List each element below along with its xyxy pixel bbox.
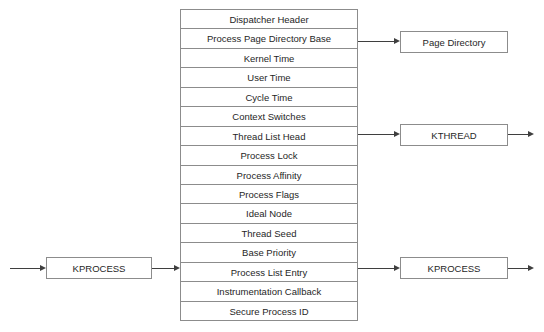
struct-row: Secure Process ID [181, 302, 357, 321]
struct-row: Process Lock [181, 146, 357, 165]
struct-row: Ideal Node [181, 204, 357, 223]
connector-line-kthread-to-edge [508, 134, 530, 135]
struct-row: Process Flags [181, 185, 357, 204]
connector-line-threadlisthead-to-kthread [358, 134, 394, 135]
arrowhead-icon-threadlisthead-to-kthread [394, 131, 400, 137]
connector-line-incoming-left [10, 268, 40, 269]
connector-line-pagedirbase-to-pagedirectory [358, 41, 394, 42]
node-box-kprocess-right: KPROCESS [400, 257, 508, 279]
struct-row: Kernel Time [181, 49, 357, 68]
struct-row: Thread List Head [181, 127, 357, 146]
struct-row: Process List Entry [181, 263, 357, 282]
struct-row: Process Page Directory Base [181, 29, 357, 48]
arrowhead-icon-pagedirbase-to-pagedirectory [394, 38, 400, 44]
struct-row: Cycle Time [181, 88, 357, 107]
connector-line-processlistentry-to-kprocess [358, 268, 394, 269]
struct-row: Base Priority [181, 243, 357, 262]
connector-line-left-kprocess-to-table [152, 268, 174, 269]
node-box-kprocess-left: KPROCESS [46, 257, 152, 279]
node-box-page-directory: Page Directory [400, 31, 508, 53]
struct-row: Process Affinity [181, 166, 357, 185]
arrowhead-icon-kthread-to-edge [528, 131, 534, 137]
node-box-kthread: KTHREAD [400, 124, 508, 146]
struct-row: Context Switches [181, 107, 357, 126]
struct-row: User Time [181, 68, 357, 87]
arrowhead-icon-left-kprocess-to-table [174, 265, 180, 271]
connector-line-right-kprocess-to-edge [508, 268, 530, 269]
kprocess-struct-table: Dispatcher Header Process Page Directory… [180, 9, 358, 321]
struct-row: Instrumentation Callback [181, 282, 357, 301]
struct-row: Dispatcher Header [181, 10, 357, 29]
arrowhead-icon-right-kprocess-to-edge [528, 265, 534, 271]
arrowhead-icon-incoming-left [40, 265, 46, 271]
diagram-canvas: Dispatcher Header Process Page Directory… [0, 0, 544, 332]
arrowhead-icon-processlistentry-to-kprocess [394, 265, 400, 271]
struct-row: Thread Seed [181, 224, 357, 243]
